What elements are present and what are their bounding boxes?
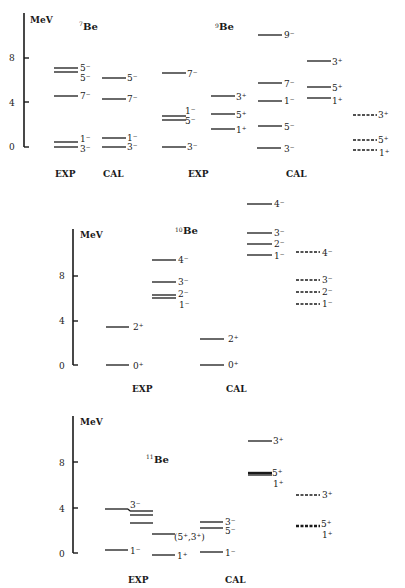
- svg-text:5⁻: 5⁻: [284, 122, 295, 132]
- svg-text:7⁻: 7⁻: [284, 79, 295, 89]
- svg-text:8: 8: [59, 271, 65, 281]
- nucleus-label-be7: Be: [83, 21, 98, 32]
- svg-text:0: 0: [59, 549, 65, 559]
- svg-text:5⁻: 5⁻: [80, 63, 91, 73]
- svg-text:1⁺: 1⁺: [322, 530, 333, 540]
- be10-dashed-levels: [296, 252, 320, 304]
- svg-text:3⁻: 3⁻: [178, 277, 189, 287]
- column-label-cal-be9: CAL: [286, 169, 307, 179]
- tick-4: 4: [9, 98, 15, 108]
- svg-text:1⁻: 1⁻: [179, 300, 190, 310]
- svg-text:9⁻: 9⁻: [284, 30, 295, 40]
- axis-panel-3: [73, 416, 78, 553]
- svg-text:5⁻: 5⁻: [80, 73, 91, 83]
- be9-exp-levels: [162, 73, 235, 147]
- svg-text:5⁺: 5⁺: [272, 468, 283, 478]
- svg-text:3⁻: 3⁻: [274, 228, 285, 238]
- nucleus-label-be11: Be: [154, 454, 169, 465]
- axis-panel-1: [24, 13, 29, 147]
- svg-text:7⁻: 7⁻: [127, 94, 138, 104]
- column-label-cal: CAL: [103, 169, 124, 179]
- svg-text:1⁻: 1⁻: [284, 96, 295, 106]
- svg-text:1⁺: 1⁺: [177, 551, 188, 561]
- svg-text:1⁻: 1⁻: [322, 299, 333, 309]
- svg-text:1⁻: 1⁻: [274, 251, 285, 261]
- svg-text:3⁺: 3⁺: [273, 436, 284, 446]
- column-label-exp-be9: EXP: [188, 169, 209, 179]
- svg-text:1⁺: 1⁺: [273, 479, 284, 489]
- panel-2-text: 0 4 8 MeV 10 Be 2⁺ 0⁺ 4⁻ 3⁻ 2⁻ 1⁻ EXP CA…: [59, 199, 333, 394]
- svg-text:4: 4: [59, 504, 65, 514]
- svg-text:3⁺: 3⁺: [378, 110, 389, 120]
- svg-text:5⁻: 5⁻: [127, 73, 138, 83]
- svg-text:3⁻: 3⁻: [127, 142, 138, 152]
- svg-text:4⁻: 4⁻: [274, 199, 285, 209]
- svg-text:3⁺: 3⁺: [236, 92, 247, 102]
- svg-text:(5⁺,3⁺): (5⁺,3⁺): [174, 532, 205, 542]
- svg-text:10: 10: [175, 226, 183, 233]
- be11-dashed-levels: [296, 495, 320, 526]
- svg-text:1⁺: 1⁺: [379, 148, 390, 158]
- svg-text:2⁺: 2⁺: [228, 334, 239, 344]
- svg-text:1⁺: 1⁺: [236, 125, 247, 135]
- svg-text:CAL: CAL: [225, 575, 246, 585]
- svg-text:5⁺: 5⁺: [236, 110, 247, 120]
- panel-3-text: 0 4 8 MeV 11 Be 3⁻ 1⁻ (5⁺,3⁺) 1⁺ EXP CAL…: [59, 417, 333, 585]
- svg-text:3⁻: 3⁻: [284, 144, 295, 154]
- svg-text:2⁺: 2⁺: [133, 322, 144, 332]
- svg-text:8: 8: [59, 458, 65, 468]
- svg-text:7⁻: 7⁻: [80, 91, 91, 101]
- svg-text:0⁺: 0⁺: [228, 360, 239, 370]
- svg-text:MeV: MeV: [80, 417, 104, 427]
- axis-panel-2: [73, 229, 78, 365]
- svg-text:5⁻: 5⁻: [185, 116, 196, 126]
- panel-1-text: 0 4 8 MeV 7 Be EXP CAL 5⁻ 5⁻ 7⁻ 1⁻ 3⁻ 5⁻…: [9, 15, 390, 179]
- be7-cal-levels: [102, 78, 126, 147]
- svg-text:0: 0: [59, 361, 65, 371]
- be9-dashed-levels: [353, 115, 377, 150]
- svg-text:4⁻: 4⁻: [178, 255, 189, 265]
- svg-text:4⁻: 4⁻: [322, 248, 333, 258]
- svg-text:1⁻: 1⁻: [185, 106, 196, 116]
- be10-exp-levels: [106, 260, 176, 365]
- nucleus-label-be10: Be: [183, 225, 198, 236]
- svg-text:3⁻: 3⁻: [80, 144, 91, 154]
- be11-cal-levels: [200, 441, 272, 552]
- svg-text:EXP: EXP: [128, 575, 149, 585]
- svg-text:1⁺: 1⁺: [332, 96, 343, 106]
- svg-text:2⁻: 2⁻: [178, 289, 189, 299]
- svg-text:1⁻: 1⁻: [225, 548, 236, 558]
- svg-text:EXP: EXP: [132, 384, 153, 394]
- svg-text:5⁺: 5⁺: [332, 83, 343, 93]
- energy-level-diagram: 0 4 8 MeV 7 Be EXP CAL 5⁻ 5⁻ 7⁻ 1⁻ 3⁻ 5⁻…: [0, 0, 405, 588]
- svg-text:3⁺: 3⁺: [322, 490, 333, 500]
- column-label-exp: EXP: [55, 169, 76, 179]
- svg-text:5⁻: 5⁻: [225, 526, 236, 536]
- svg-text:5⁺: 5⁺: [378, 135, 389, 145]
- svg-text:7⁻: 7⁻: [187, 69, 198, 79]
- svg-text:1⁻: 1⁻: [80, 134, 91, 144]
- svg-text:4: 4: [59, 316, 65, 326]
- tick-8: 8: [9, 53, 15, 63]
- svg-text:CAL: CAL: [226, 384, 247, 394]
- svg-text:5⁺: 5⁺: [321, 519, 332, 529]
- svg-text:2⁻: 2⁻: [322, 287, 333, 297]
- svg-text:3⁻: 3⁻: [130, 500, 141, 510]
- be7-exp-levels: [54, 68, 78, 147]
- tick-0: 0: [9, 142, 15, 152]
- svg-text:3⁻: 3⁻: [322, 275, 333, 285]
- svg-text:3⁺: 3⁺: [332, 57, 343, 67]
- svg-text:0⁺: 0⁺: [133, 361, 144, 371]
- axis-unit: MeV: [30, 15, 54, 25]
- svg-text:11: 11: [146, 453, 154, 460]
- nucleus-label-be9: Be: [219, 21, 234, 32]
- svg-text:2⁻: 2⁻: [274, 239, 285, 249]
- svg-text:1⁻: 1⁻: [130, 546, 141, 556]
- svg-text:3⁻: 3⁻: [187, 142, 198, 152]
- svg-text:MeV: MeV: [80, 230, 104, 240]
